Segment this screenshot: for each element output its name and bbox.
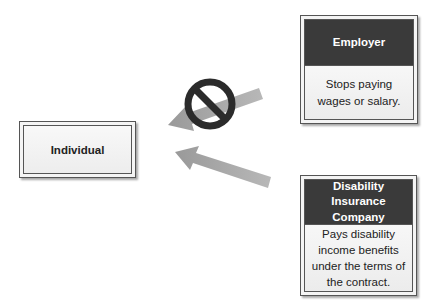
employer-title: Employer bbox=[305, 20, 413, 66]
individual-label: Individual bbox=[24, 126, 131, 173]
individual-box: Individual bbox=[19, 121, 136, 178]
employer-box: Employer Stops paying wages or salary. bbox=[300, 15, 418, 124]
insurer-box: Disability Insurance Company Pays disabi… bbox=[300, 175, 417, 296]
insurer-to-individual-arrow bbox=[175, 146, 271, 188]
insurer-description: Pays disability income benefits under th… bbox=[305, 225, 412, 291]
insurer-title: Disability Insurance Company bbox=[305, 180, 412, 225]
employer-description: Stops paying wages or salary. bbox=[305, 66, 413, 119]
